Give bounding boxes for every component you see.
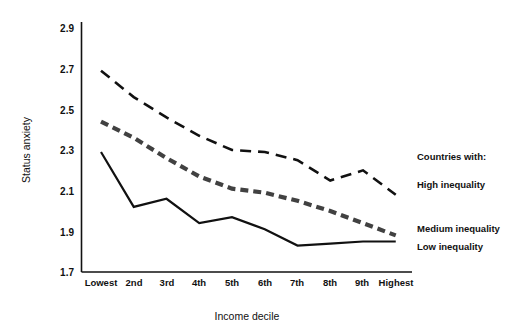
x-tick-label: 9th — [355, 277, 369, 288]
x-axis-tick-labels: Lowest 2nd 3rd 4th 5th 6th 7th 8th 9th H… — [85, 277, 415, 288]
y-tick-label: 2.5 — [60, 105, 74, 116]
x-tick-label: 4th — [192, 277, 206, 288]
legend-entry-high-inequality: High inequality — [417, 179, 486, 190]
y-axis-tick-labels: 2.9 2.7 2.5 2.3 2.1 1.9 1.7 — [60, 23, 74, 278]
series-line-low-inequality — [101, 152, 396, 246]
x-tick-label: 7th — [290, 277, 304, 288]
y-tick-label: 2.9 — [60, 23, 74, 34]
x-tick-label: 8th — [323, 277, 337, 288]
status-anxiety-line-chart: 2.9 2.7 2.5 2.3 2.1 1.9 1.7 Lowest 2nd 3… — [0, 0, 526, 333]
y-tick-label: 2.7 — [60, 64, 74, 75]
legend-entry-low-inequality: Low inequality — [417, 241, 484, 252]
x-axis-title: Income decile — [215, 310, 280, 322]
y-tick-label: 2.3 — [60, 145, 74, 156]
y-tick-label: 1.7 — [60, 267, 74, 278]
x-tick-label: Highest — [379, 277, 415, 288]
x-tick-label: 2nd — [126, 277, 143, 288]
x-tick-label: Lowest — [85, 277, 119, 288]
y-axis-title: Status anxiety — [20, 116, 32, 183]
chart-plot-area: 2.9 2.7 2.5 2.3 2.1 1.9 1.7 Lowest 2nd 3… — [0, 0, 526, 333]
x-tick-label: 3rd — [160, 277, 175, 288]
series-line-high-inequality — [101, 71, 396, 195]
x-tick-label: 6th — [258, 277, 272, 288]
legend-entry-medium-inequality: Medium inequality — [417, 223, 501, 234]
y-tick-label: 1.9 — [60, 227, 74, 238]
y-tick-label: 2.1 — [60, 186, 74, 197]
series-line-medium-inequality — [101, 122, 396, 236]
legend-header: Countries with: — [417, 151, 486, 162]
chart-legend: Countries with: High inequality Medium i… — [417, 151, 501, 252]
x-tick-label: 5th — [225, 277, 239, 288]
